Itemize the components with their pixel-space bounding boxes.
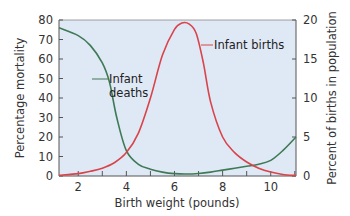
y-tick-label-left: 10 <box>38 150 53 164</box>
y-tick-label-left: 20 <box>38 130 53 144</box>
x-tick-label: 4 <box>123 180 130 194</box>
annotation-births: Infant births <box>214 38 284 52</box>
y-tick-label-right: 10 <box>303 91 318 105</box>
x-axis-label: Birth weight (pounds) <box>115 196 240 210</box>
y-tick-label-right: 5 <box>303 130 310 144</box>
chart: 0102030405060708005101520246810 Infant d… <box>0 0 350 216</box>
y-tick-label-left: 0 <box>46 169 53 183</box>
x-tick-label: 2 <box>75 180 82 194</box>
y-tick-label-left: 40 <box>38 91 53 105</box>
y-tick-label-left: 50 <box>38 72 53 86</box>
x-tick-label: 6 <box>171 180 178 194</box>
x-tick-label: 10 <box>263 180 278 194</box>
annotation-deaths-line2: deaths <box>109 86 148 100</box>
y-tick-label-left: 80 <box>38 13 53 27</box>
y-tick-label-right: 20 <box>303 13 318 27</box>
y-tick-label-right: 0 <box>303 169 310 183</box>
y-tick-label-left: 70 <box>38 33 53 47</box>
annotation-deaths-line1: Infant <box>109 72 143 86</box>
y-tick-label-right: 15 <box>303 52 318 66</box>
y-axis-label-left: Percentage mortality <box>13 38 27 159</box>
x-tick-label: 8 <box>219 180 226 194</box>
y-tick-label-left: 60 <box>38 52 53 66</box>
y-tick-label-left: 30 <box>38 111 53 125</box>
y-axis-label-right: Percent of births in population <box>325 11 339 185</box>
